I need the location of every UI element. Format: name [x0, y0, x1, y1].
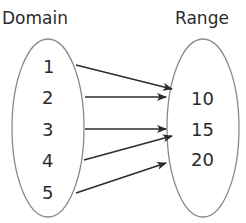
domain-value-1: 1 [43, 56, 54, 77]
domain-value-3: 3 [42, 119, 53, 140]
range-title: Range [175, 8, 229, 28]
range-value-15: 15 [191, 119, 214, 140]
domain-value-5: 5 [42, 182, 53, 203]
mapping-diagram: Domain Range 1 2 3 4 5 10 15 20 [0, 0, 246, 223]
range-value-10: 10 [191, 88, 214, 109]
domain-title: Domain [2, 8, 68, 28]
arrow-1-to-10 [76, 65, 172, 89]
range-value-20: 20 [191, 149, 214, 170]
domain-value-4: 4 [42, 150, 53, 171]
domain-value-2: 2 [42, 87, 53, 108]
arrow-4-to-15 [84, 136, 172, 160]
arrow-5-to-20 [76, 163, 166, 193]
